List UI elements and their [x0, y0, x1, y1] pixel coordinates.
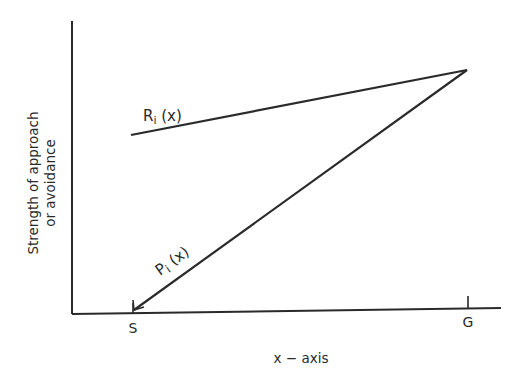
tick-label-g: G: [463, 314, 474, 330]
r-label: Ri (x): [143, 107, 182, 127]
tick-label-s: S: [129, 320, 138, 336]
diagram-figure: Ri (x) Pi (x) S G x − axis Strength of a…: [0, 0, 531, 383]
p-gradient-line: [134, 70, 467, 310]
y-axis-label-line2: or avoidance: [42, 139, 58, 227]
r-gradient-line: [131, 70, 467, 135]
y-axis-label-line1: Strength of approach: [25, 111, 41, 254]
x-axis-label: x − axis: [274, 350, 329, 366]
p-label: Pi (x): [152, 243, 194, 281]
